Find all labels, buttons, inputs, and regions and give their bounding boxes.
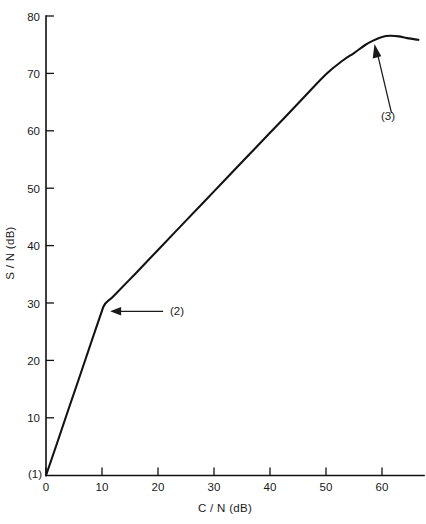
callout-3-group: (3) bbox=[373, 44, 396, 122]
callout-3-label: (3) bbox=[381, 110, 395, 122]
y-tick-label-80: 80 bbox=[27, 11, 40, 23]
x-tick-label-60: 60 bbox=[376, 481, 389, 493]
sn-vs-cn-plot: 80 70 60 50 40 30 20 10 0 10 20 30 40 50 bbox=[0, 0, 426, 524]
callout-3-arrowhead bbox=[373, 44, 382, 59]
y-tick-label-40: 40 bbox=[27, 240, 40, 252]
x-tick-label-0: 0 bbox=[43, 481, 49, 493]
y-tick-label-50: 50 bbox=[27, 183, 40, 195]
x-tick-label-30: 30 bbox=[208, 481, 221, 493]
y-tick-label-20: 20 bbox=[27, 355, 40, 367]
callout-2-label: (2) bbox=[170, 305, 184, 317]
callout-1-label: (1) bbox=[28, 468, 42, 480]
y-tick-label-10: 10 bbox=[27, 412, 40, 424]
x-axis-title: C / N (dB) bbox=[198, 502, 252, 514]
y-tick-label-30: 30 bbox=[27, 298, 40, 310]
x-axis-tick-labels: 0 10 20 30 40 50 60 bbox=[43, 481, 389, 493]
x-tick-label-20: 20 bbox=[152, 481, 165, 493]
x-tick-label-40: 40 bbox=[264, 481, 277, 493]
x-axis-ticks bbox=[46, 468, 382, 476]
axis-lines bbox=[46, 16, 424, 476]
y-axis-ticks bbox=[46, 16, 54, 418]
callout-2-group: (2) bbox=[110, 305, 184, 317]
callout-3-leader bbox=[378, 56, 392, 113]
callout-1-group: (1) bbox=[28, 468, 42, 480]
x-tick-label-50: 50 bbox=[320, 481, 333, 493]
y-axis-title: S / N (dB) bbox=[4, 226, 16, 279]
axes-group bbox=[46, 16, 424, 476]
y-tick-label-70: 70 bbox=[27, 68, 40, 80]
y-tick-label-60: 60 bbox=[27, 125, 40, 137]
chart-figure: 80 70 60 50 40 30 20 10 0 10 20 30 40 50 bbox=[0, 0, 426, 524]
data-curve-complete bbox=[46, 36, 418, 476]
y-axis-tick-labels: 80 70 60 50 40 30 20 10 bbox=[27, 11, 40, 425]
callout-2-arrowhead bbox=[110, 307, 121, 315]
x-tick-label-10: 10 bbox=[96, 481, 109, 493]
